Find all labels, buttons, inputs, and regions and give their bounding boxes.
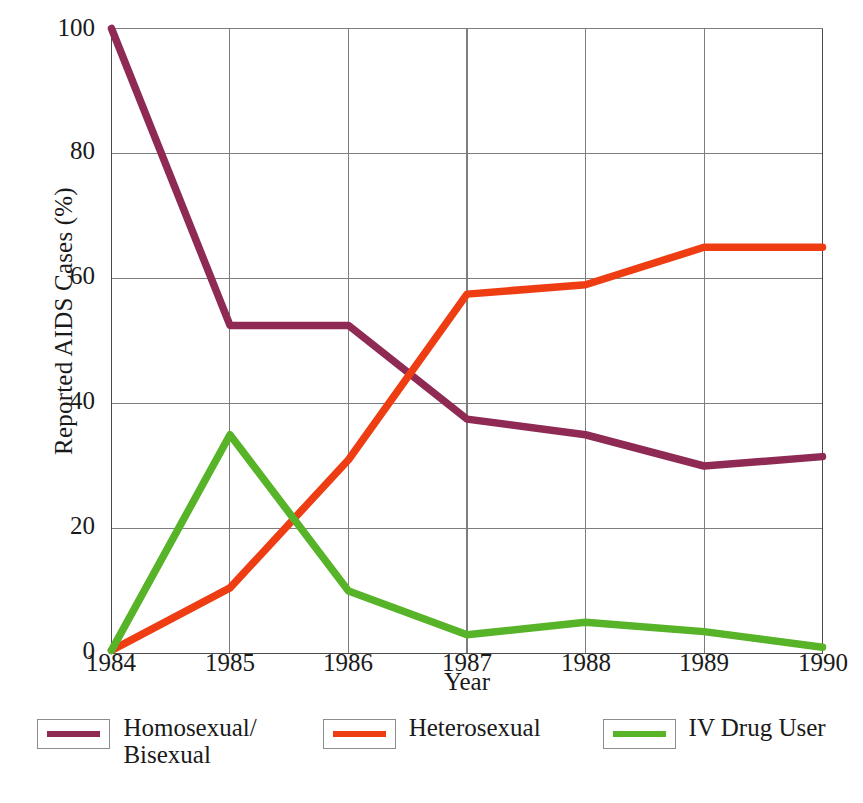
legend-item-iv-drug-user: IV Drug User	[603, 714, 826, 749]
legend-color-bar	[613, 731, 666, 737]
y-tick-label-40: 40	[33, 388, 95, 413]
vertical-gridlines	[230, 29, 705, 654]
chart-svg	[0, 0, 863, 670]
legend-label-homosexual-bisexual: Homosexual/ Bisexual	[123, 714, 256, 768]
legend-label-heterosexual: Heterosexual	[409, 714, 541, 741]
legend-item-homosexual-bisexual: Homosexual/ Bisexual	[37, 714, 256, 768]
y-tick-label-20: 20	[33, 513, 95, 538]
legend-label-iv-drug-user: IV Drug User	[689, 714, 826, 741]
y-tick-label-80: 80	[33, 138, 95, 163]
legend-swatch-icon-heterosexual	[323, 719, 396, 749]
aids-cases-line-chart-figure: Reported AIDS Cases (%) 100 80 60 40 20 …	[0, 0, 863, 803]
legend-swatch-icon-iv-drug-user	[603, 719, 676, 749]
legend-swatch-icon-homosexual-bisexual	[37, 719, 110, 749]
y-tick-label-60: 60	[33, 263, 95, 288]
legend-item-heterosexual: Heterosexual	[323, 714, 541, 749]
chart-legend: Homosexual/ Bisexual Heterosexual IV Dru…	[0, 714, 863, 786]
legend-color-bar	[333, 731, 386, 737]
y-tick-label-100: 100	[33, 15, 95, 40]
x-axis-title: Year	[111, 668, 823, 696]
legend-color-bar	[47, 731, 100, 737]
y-tick-label-group: 100 80 60 40 20 0	[33, 0, 95, 670]
plot-area-wrapper: Reported AIDS Cases (%) 100 80 60 40 20 …	[0, 0, 863, 670]
